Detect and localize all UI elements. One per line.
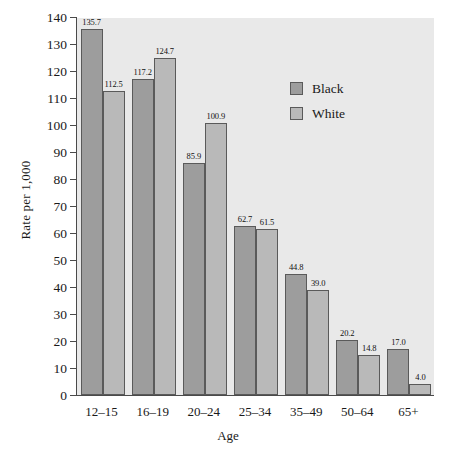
y-axis-tick-mark [70,44,77,45]
y-axis-tick-mark [70,71,77,72]
bar-white [358,355,380,395]
bar-value-label: 100.9 [196,111,236,121]
bar-group: 44.839.0 [285,18,329,395]
y-axis-tick-label: 80 [29,170,67,190]
y-axis-tick-mark [70,179,77,180]
y-axis-tick-label: 100 [29,116,67,136]
x-axis-tick-label: 65+ [373,404,443,420]
bar-white [154,58,176,395]
y-axis-tick-label: 110 [29,89,67,109]
y-axis-tick-mark [70,206,77,207]
y-axis-tick-label: 90 [29,143,67,163]
y-axis-tick-label: 20 [29,332,67,352]
bar-value-label: 135.7 [72,17,112,27]
bar-value-label: 61.5 [247,217,287,227]
bar-chart-figure: Rate per 1,000 0102030405060708090100110… [0,0,456,451]
legend-swatch-black [290,82,303,95]
bar-white [307,290,329,395]
bar-white [409,384,431,395]
legend-label-black: Black [312,81,344,97]
y-axis-tick-label: 30 [29,305,67,325]
bar-group: 62.761.5 [234,18,278,395]
y-axis-tick-mark [70,368,77,369]
bar-value-label: 20.2 [327,328,367,338]
legend-item-black: Black [290,76,400,101]
y-axis-tick-mark [70,125,77,126]
legend-label-white: White [312,106,345,122]
y-axis-tick-label: 120 [29,62,67,82]
plot-area: 0102030405060708090100110120130140 135.7… [76,18,434,396]
y-axis-tick-mark [70,287,77,288]
bar-group: 135.7112.5 [81,18,125,395]
bar-group: 85.9100.9 [183,18,227,395]
bar-group: 17.04.0 [387,18,431,395]
y-axis-tick-mark [70,98,77,99]
y-axis-tick-mark [70,152,77,153]
y-axis-tick-label: 140 [29,8,67,28]
y-axis-tick-label: 50 [29,251,67,271]
bar-value-label: 17.0 [378,337,418,347]
bar-white [103,91,125,395]
y-axis-tick-mark [70,395,77,396]
bar-white [256,229,278,395]
bar-black [285,274,307,395]
bar-black [183,163,205,395]
bar-black [234,226,256,395]
bar-series-container: 135.7112.5117.2124.785.9100.962.761.544.… [77,18,434,395]
bar-group: 20.214.8 [336,18,380,395]
legend-swatch-white [290,107,303,120]
bar-value-label: 112.5 [94,79,134,89]
legend-item-white: White [290,101,400,126]
bar-group: 117.2124.7 [132,18,176,395]
y-axis-tick-mark [70,260,77,261]
x-axis-title: Age [0,428,456,444]
y-axis-tick-label: 0 [29,386,67,406]
bar-black [132,79,154,395]
y-axis-tick-label: 70 [29,197,67,217]
y-axis-tick-mark [70,341,77,342]
bar-value-label: 124.7 [145,46,185,56]
y-axis-tick-label: 10 [29,359,67,379]
y-axis-tick-mark [70,233,77,234]
y-axis-tick-label: 60 [29,224,67,244]
bar-white [205,123,227,395]
bar-value-label: 4.0 [400,372,440,382]
y-axis-tick-mark [70,314,77,315]
bar-value-label: 44.8 [276,262,316,272]
y-axis-tick-label: 40 [29,278,67,298]
y-axis-tick-label: 130 [29,35,67,55]
bar-value-label: 39.0 [298,278,338,288]
chart-legend: Black White [290,76,400,126]
